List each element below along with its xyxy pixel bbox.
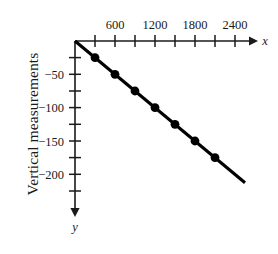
chart-plot-area: 600 1200 1800 2400 x −50 −100 −150 −200 … — [0, 0, 278, 254]
data-point — [131, 87, 140, 96]
trend-line — [75, 41, 245, 183]
data-point — [111, 70, 120, 79]
y-tick-label-minus100: −100 — [38, 101, 64, 115]
data-point — [171, 120, 180, 129]
x-tick-label-1200: 1200 — [143, 18, 168, 32]
data-point — [151, 103, 160, 112]
y-axis-name: y — [70, 220, 78, 234]
x-tick-label-1800: 1800 — [183, 18, 208, 32]
x-axis-arrowhead — [249, 36, 258, 45]
chart-figure: 600 1200 1800 2400 x −50 −100 −150 −200 … — [0, 0, 278, 254]
data-point — [211, 153, 220, 162]
x-tick-label-2400: 2400 — [223, 18, 248, 32]
y-tick-label-minus200: −200 — [38, 168, 64, 182]
data-point — [91, 53, 100, 62]
y-axis-group: −50 −100 −150 −200 y — [38, 41, 81, 234]
x-axis-group: 600 1200 1800 2400 x — [75, 18, 268, 48]
x-axis-label: x — [261, 34, 268, 48]
y-tick-label-minus150: −150 — [38, 135, 64, 149]
x-tick-label-600: 600 — [106, 18, 125, 32]
data-point — [191, 137, 200, 146]
data-series-group — [75, 41, 245, 183]
y-axis-arrowhead — [70, 208, 79, 217]
y-tick-label-minus50: −50 — [44, 68, 64, 82]
